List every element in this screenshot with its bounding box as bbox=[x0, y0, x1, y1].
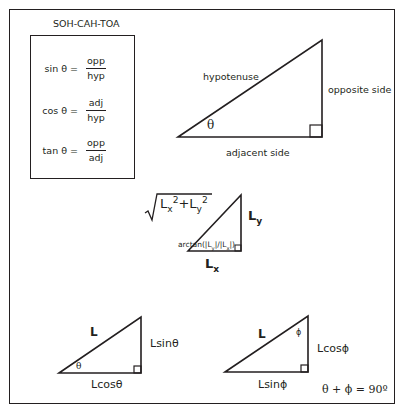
theta-hyp-label: L bbox=[90, 325, 98, 339]
right-angle-marker bbox=[134, 366, 141, 373]
right-angle-marker bbox=[301, 365, 308, 372]
lx-label: Lx bbox=[205, 256, 219, 274]
right-angle-marker bbox=[235, 245, 241, 251]
arctan-angle-label: arctan(|Ly|/|Lx|) bbox=[178, 240, 235, 251]
opposite-side-label: opposite side bbox=[328, 84, 391, 95]
theta-angle-label: θ bbox=[207, 118, 214, 132]
main-triangle bbox=[178, 40, 322, 137]
phi-small-angle: ϕ bbox=[296, 328, 301, 337]
phi-hyp-label: L bbox=[258, 327, 266, 341]
phi-triangle bbox=[225, 316, 308, 372]
lcos-theta-label: Lcosθ bbox=[91, 378, 122, 391]
theta-triangle bbox=[59, 317, 141, 373]
lsin-theta-label: Lsinθ bbox=[150, 337, 179, 350]
theta-small-angle: θ bbox=[76, 361, 81, 371]
adjacent-side-label: adjacent side bbox=[226, 147, 290, 158]
magnitude-expression: Lx2+Ly2 bbox=[160, 195, 208, 214]
hypotenuse-label: hypotenuse bbox=[203, 71, 259, 82]
right-angle-marker bbox=[310, 125, 322, 137]
lsin-phi-label: Lsinϕ bbox=[258, 378, 287, 391]
ly-label: Ly bbox=[248, 208, 262, 226]
lcos-phi-label: Lcosϕ bbox=[317, 342, 349, 355]
angle-sum-identity: θ + ϕ = 90º bbox=[322, 383, 388, 396]
